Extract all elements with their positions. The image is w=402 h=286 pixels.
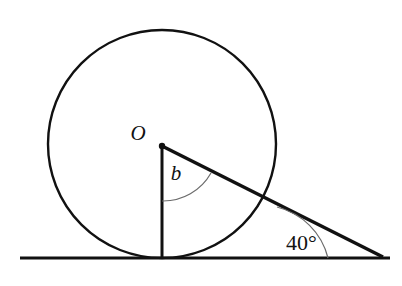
center-point-dot bbox=[159, 143, 165, 149]
geometry-figure: O b 40° bbox=[0, 0, 402, 286]
center-point-label: O bbox=[130, 121, 145, 145]
geometry-diagram-canvas: O b 40° bbox=[0, 0, 402, 286]
central-angle-label: b bbox=[171, 161, 182, 185]
figure-background bbox=[0, 0, 402, 286]
base-angle-label: 40° bbox=[286, 230, 317, 255]
